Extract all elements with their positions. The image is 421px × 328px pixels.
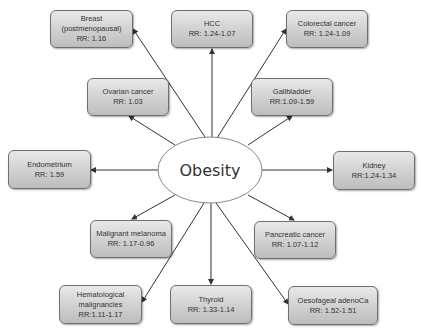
node-colorectal-rr: RR: 1.24-1.09 (304, 29, 351, 39)
node-hematological: Hematological malignancies RR:1.11-1.17 (59, 285, 142, 324)
obesity-label: Obesity (158, 137, 262, 203)
node-kidney-rr: RR:1.24-1.34 (352, 171, 397, 181)
node-thyroid-rr: RR: 1.33-1.14 (188, 305, 235, 315)
node-hcc-title: HCC (204, 19, 220, 29)
node-pancreatic: Pancreatic cancer RR: 1.07-1.12 (254, 221, 336, 259)
node-pancreatic-rr: RR: 1.07-1.12 (272, 240, 319, 250)
node-hematological-subtitle: malignancies (79, 300, 123, 310)
node-ovarian-title: Ovarian cancer (103, 87, 154, 97)
node-endometrium-rr: RR: 1.59 (35, 170, 65, 180)
node-thyroid-title: Thyroid (198, 295, 223, 305)
node-melanoma-rr: RR: 1.17-0.96 (108, 239, 155, 249)
node-thyroid: Thyroid RR: 1.33-1.14 (170, 285, 252, 324)
node-breast-title: Breast (81, 14, 103, 24)
node-endometrium-title: Endometrium (27, 160, 72, 170)
node-oesofageal-title: Oesofageal adenoCa (298, 296, 369, 306)
node-oesofageal-rr: RR: 1.52-1.51 (310, 306, 357, 316)
node-ovarian-rr: RR: 1.03 (113, 97, 143, 107)
node-endometrium: Endometrium RR: 1.59 (8, 150, 91, 189)
node-melanoma: Malignant melanoma RR: 1.17-0.96 (90, 220, 172, 258)
node-kidney: Kidney RR:1.24-1.34 (333, 151, 415, 190)
node-colorectal-title: Colorectal cancer (298, 19, 356, 29)
node-hematological-rr: RR:1.11-1.17 (78, 310, 122, 320)
node-ovarian: Ovarian cancer RR: 1.03 (87, 78, 169, 116)
obesity-cancer-diagram: Obesity Breast (postmenopausal) RR: 1.16… (0, 0, 421, 328)
node-hcc: HCC RR: 1.24-1.07 (171, 10, 253, 48)
node-kidney-title: Kidney (363, 161, 386, 171)
node-melanoma-title: Malignant melanoma (96, 229, 166, 239)
node-colorectal: Colorectal cancer RR: 1.24-1.09 (286, 10, 368, 48)
node-gallbladder-title: Gallbladder (273, 87, 311, 97)
node-breast-subtitle: (postmenopausal) (61, 24, 121, 34)
node-pancreatic-title: Pancreatic cancer (265, 230, 325, 240)
node-gallbladder: Gallbladder RR:1.09-1.59 (251, 78, 333, 116)
node-hematological-title: Hematological (77, 290, 125, 300)
node-hcc-rr: RR: 1.24-1.07 (189, 29, 236, 39)
node-oesofageal: Oesofageal adenoCa RR: 1.52-1.51 (288, 286, 378, 325)
node-breast: Breast (postmenopausal) RR: 1.16 (50, 10, 133, 48)
node-gallbladder-rr: RR:1.09-1.59 (270, 97, 315, 107)
node-breast-rr: RR: 1.16 (77, 34, 107, 44)
